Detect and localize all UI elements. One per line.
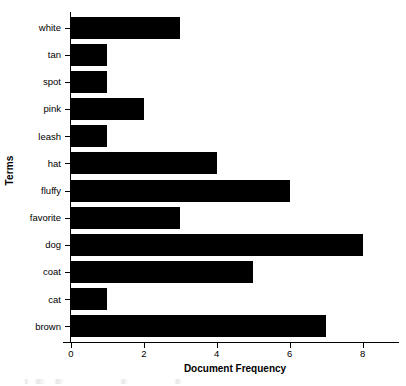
bar-row bbox=[71, 177, 399, 204]
plot-area bbox=[71, 14, 399, 340]
bar-row bbox=[71, 68, 399, 95]
y-tick-label: hat bbox=[16, 150, 64, 177]
x-tick-label: 6 bbox=[287, 349, 292, 359]
y-tick-label: fluffy bbox=[16, 177, 64, 204]
y-tick-label: brown bbox=[16, 313, 64, 340]
bar[interactable] bbox=[71, 234, 363, 256]
bar[interactable] bbox=[71, 44, 107, 66]
y-tick-label: tan bbox=[16, 41, 64, 68]
bar-series bbox=[71, 14, 399, 340]
y-axis-title-text: Terms bbox=[5, 155, 16, 185]
bar[interactable] bbox=[71, 125, 107, 147]
y-tick-mark bbox=[65, 313, 70, 340]
y-tick-label: dog bbox=[16, 231, 64, 258]
x-tick-label: 0 bbox=[68, 349, 73, 359]
bar-row bbox=[71, 41, 399, 68]
y-tick-mark bbox=[65, 204, 70, 231]
x-tick-label: 8 bbox=[360, 349, 365, 359]
y-tick-mark bbox=[65, 177, 70, 204]
y-tick-label: favorite bbox=[16, 204, 64, 231]
bar-row bbox=[71, 231, 399, 258]
bar[interactable] bbox=[71, 152, 217, 174]
y-tick-label: cat bbox=[16, 286, 64, 313]
bar-row bbox=[71, 204, 399, 231]
x-tick-label: 4 bbox=[214, 349, 219, 359]
y-tick-mark bbox=[65, 41, 70, 68]
bar-row bbox=[71, 259, 399, 286]
y-tick-mark bbox=[65, 123, 70, 150]
x-axis-tick-labels: 02468 bbox=[71, 349, 399, 362]
bar-row bbox=[71, 123, 399, 150]
y-tick-mark bbox=[65, 14, 70, 41]
bar[interactable] bbox=[71, 315, 326, 337]
bar[interactable] bbox=[71, 71, 107, 93]
y-tick-label: coat bbox=[16, 259, 64, 286]
bar-row bbox=[71, 14, 399, 41]
bar-row bbox=[71, 96, 399, 123]
y-tick-mark bbox=[65, 96, 70, 123]
bar-chart: Terms white tan spot pink leash hat fluf… bbox=[0, 0, 406, 386]
y-tick-mark bbox=[65, 150, 70, 177]
y-tick-label: leash bbox=[16, 123, 64, 150]
y-axis-tick-labels: white tan spot pink leash hat fluffy fav… bbox=[16, 14, 64, 340]
x-axis-tick-marks bbox=[71, 343, 399, 348]
x-tick-label: 2 bbox=[141, 349, 146, 359]
y-tick-label: pink bbox=[16, 96, 64, 123]
bar-row bbox=[71, 150, 399, 177]
bar[interactable] bbox=[71, 207, 180, 229]
bar[interactable] bbox=[71, 288, 107, 310]
y-tick-mark bbox=[65, 259, 70, 286]
bar[interactable] bbox=[71, 261, 253, 283]
y-axis-tick-marks bbox=[65, 14, 70, 340]
y-tick-mark bbox=[65, 68, 70, 95]
bar[interactable] bbox=[71, 17, 180, 39]
y-tick-mark bbox=[65, 286, 70, 313]
bar-row bbox=[71, 313, 399, 340]
x-axis-title: Document Frequency bbox=[71, 363, 399, 374]
cropped-caption-artifact bbox=[24, 379, 184, 384]
y-tick-label: white bbox=[16, 14, 64, 41]
bar[interactable] bbox=[71, 180, 290, 202]
y-tick-label: spot bbox=[16, 68, 64, 95]
y-tick-mark bbox=[65, 231, 70, 258]
bar-row bbox=[71, 286, 399, 313]
bar[interactable] bbox=[71, 98, 144, 120]
